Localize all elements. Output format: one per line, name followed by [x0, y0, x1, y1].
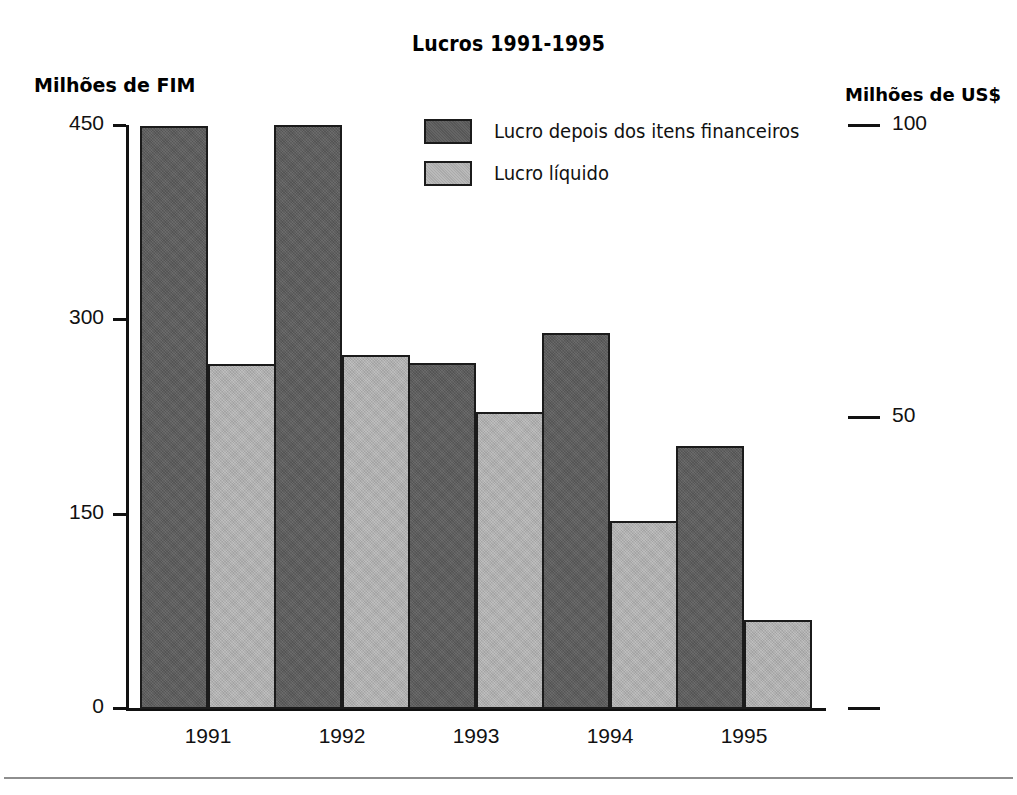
dark-gray-swatch-icon — [424, 119, 472, 144]
left-axis-title: Milhões de FIM — [34, 74, 195, 96]
light-gray-swatch-icon — [424, 161, 472, 186]
bar — [610, 521, 678, 709]
secondary-y-axis: 50100 — [848, 120, 998, 712]
footer-divider — [4, 777, 1013, 779]
x-axis-tick-label: 1995 — [694, 724, 794, 748]
bar — [342, 355, 410, 709]
x-axis-tick-label: 1991 — [158, 724, 258, 748]
secondary-y-axis-tick-label: 100 — [892, 111, 927, 135]
y-axis-tick — [113, 707, 126, 710]
bar — [274, 125, 342, 709]
legend-item-label: Lucro depois dos itens financeiros — [494, 119, 799, 143]
y-axis-tick-label: 0 — [34, 694, 104, 718]
bar — [208, 364, 276, 709]
y-axis-tick — [113, 124, 126, 127]
y-axis-tick — [113, 513, 126, 516]
bar — [476, 412, 544, 709]
x-axis-tick-label: 1993 — [426, 724, 526, 748]
secondary-y-axis-tick — [848, 124, 880, 127]
plot-area: 4503001500 19911992199319941995 — [126, 120, 826, 712]
bar — [542, 333, 610, 709]
bar — [408, 363, 476, 709]
y-axis-tick-label: 300 — [34, 305, 104, 329]
y-axis-tick — [113, 318, 126, 321]
chart-figure: Lucros 1991-1995 Milhões de FIM Milhões … — [0, 0, 1017, 795]
chart-title: Lucros 1991-1995 — [0, 32, 1017, 56]
secondary-y-axis-tick — [848, 707, 880, 710]
bar — [140, 126, 208, 709]
x-axis-tick-label: 1992 — [292, 724, 392, 748]
x-axis-tick-label: 1994 — [560, 724, 660, 748]
y-axis-tick-label: 450 — [34, 111, 104, 135]
y-axis-line — [126, 125, 129, 710]
bar — [676, 446, 744, 709]
legend-item-label: Lucro líquido — [494, 161, 609, 185]
legend-item: Lucro depois dos itens financeiros — [424, 118, 799, 144]
legend-item: Lucro líquido — [424, 160, 799, 186]
bar — [744, 620, 812, 709]
right-axis-title: Milhões de US$ — [845, 84, 1001, 105]
secondary-y-axis-tick-label: 50 — [892, 403, 915, 427]
chart-legend: Lucro depois dos itens financeiros Lucro… — [424, 118, 799, 202]
secondary-y-axis-tick — [848, 416, 880, 419]
y-axis-tick-label: 150 — [34, 500, 104, 524]
